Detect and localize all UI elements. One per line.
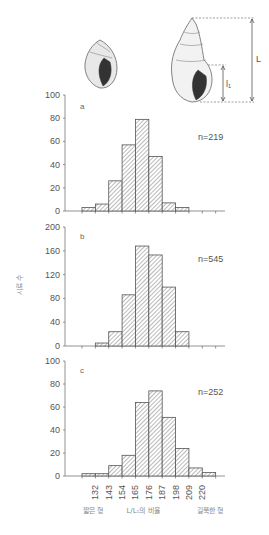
histogram-bar	[135, 119, 148, 211]
y-tick-label: 60	[50, 136, 60, 146]
x-tick-label: 154	[117, 485, 127, 500]
x-tick-label: 187	[157, 485, 167, 500]
sample-size-label: n=219	[198, 132, 223, 142]
y-tick-label: 0	[55, 206, 60, 216]
short-shell-illustration	[85, 40, 117, 88]
length-L-label: L	[256, 54, 261, 64]
y-tick-label: 40	[50, 160, 60, 170]
x-tick-label: 198	[171, 485, 181, 500]
histogram-bar	[162, 417, 175, 476]
sample-size-label: n=545	[198, 254, 223, 264]
y-tick-label: 100	[45, 90, 60, 100]
histogram-panel-b: 04080120160200bn=545	[45, 222, 225, 351]
x-tick-label: 209	[184, 485, 194, 500]
y-tick-label: 100	[45, 356, 60, 366]
y-tick-label: 20	[50, 448, 60, 458]
figure: L l₁ 020406080100an=219 04080120160200bn…	[0, 0, 269, 535]
y-tick-label: 200	[45, 222, 60, 232]
y-tick-label: 80	[50, 113, 60, 123]
histogram-bar	[122, 295, 135, 346]
length-l1-label: l₁	[226, 79, 231, 89]
histogram-bar	[162, 287, 175, 346]
y-tick-label: 120	[45, 270, 60, 280]
y-tick-label: 40	[50, 317, 60, 327]
x-axis-right-label: 길쭉한 형	[197, 507, 223, 515]
histogram-panel-c: 020406080100cn=252	[45, 356, 225, 481]
histogram-bar	[95, 343, 108, 346]
x-tick-label: 132	[90, 485, 100, 500]
panel-letter: a	[80, 102, 85, 111]
x-tick-label: 176	[144, 485, 154, 500]
y-tick-label: 60	[50, 402, 60, 412]
histogram-bar	[109, 466, 122, 476]
histogram-bar	[176, 448, 189, 476]
panel-letter: b	[80, 232, 85, 241]
histogram-bar	[149, 391, 162, 476]
histogram-bar	[122, 145, 135, 211]
histogram-bar	[202, 473, 215, 476]
histogram-bar	[176, 332, 189, 346]
x-axis-left-label: 짧은 형	[83, 507, 103, 515]
y-tick-label: 80	[50, 379, 60, 389]
y-tick-label: 20	[50, 183, 60, 193]
histogram-bar	[82, 474, 95, 476]
histogram-panel-a: 020406080100an=219	[45, 90, 225, 216]
histogram-bar	[109, 332, 122, 346]
x-tick-labels: 132143154165176187198209220	[90, 485, 207, 500]
y-tick-label: 0	[55, 341, 60, 351]
histogram-bar	[149, 255, 162, 346]
panel-letter: c	[80, 366, 84, 375]
histogram-bar	[82, 208, 95, 211]
histogram-bar	[95, 474, 108, 476]
sample-size-label: n=252	[198, 387, 223, 397]
histogram-bar	[162, 203, 175, 211]
y-axis-label: 시료 수	[16, 274, 24, 295]
x-tick-label: 165	[130, 485, 140, 500]
histogram-bar	[149, 156, 162, 211]
elongated-shell-illustration	[171, 18, 212, 102]
y-tick-label: 40	[50, 425, 60, 435]
histogram-bar	[95, 204, 108, 211]
histogram-bar	[135, 246, 148, 346]
histogram-bar	[176, 208, 189, 211]
histogram-bar	[109, 181, 122, 211]
x-axis-label: L/L₁의 비율	[126, 506, 160, 515]
histogram-bar	[122, 455, 135, 476]
x-tick-label: 220	[197, 485, 207, 500]
y-tick-label: 0	[55, 471, 60, 481]
histogram-bar	[189, 468, 202, 476]
y-tick-label: 160	[45, 246, 60, 256]
histogram-bar	[135, 402, 148, 476]
x-tick-label: 143	[104, 485, 114, 500]
y-tick-label: 80	[50, 293, 60, 303]
